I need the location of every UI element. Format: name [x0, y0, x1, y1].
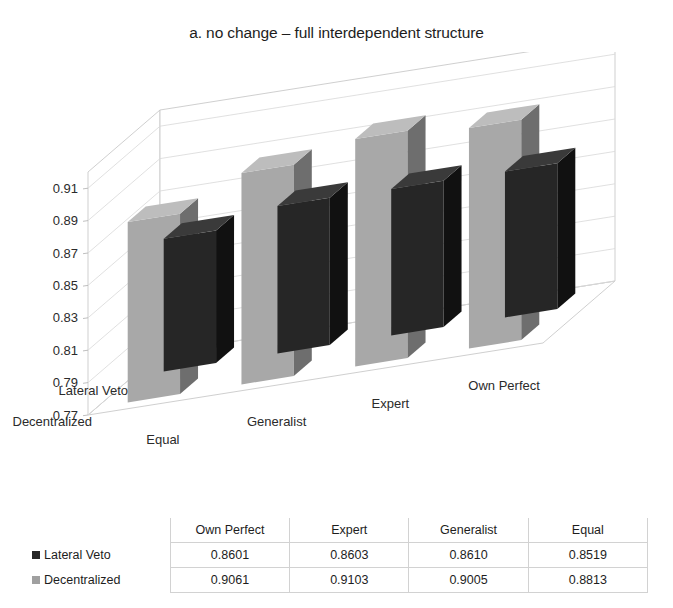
table-col-header-2: Generalist — [409, 518, 528, 543]
depth-axis-label-decentralized: Decentralized — [13, 414, 93, 429]
data-table-container: Own Perfect Expert Generalist Equal Late… — [26, 518, 648, 593]
bar-front-face — [505, 163, 557, 317]
y-axis-tick-label: 0.91 — [53, 181, 78, 196]
axis-tick-mark — [83, 221, 88, 222]
y-axis-tick-label: 0.81 — [53, 343, 78, 358]
legend-swatch-icon — [32, 576, 40, 584]
bar-lateral-veto-equal — [164, 215, 234, 371]
series-label-decentralized: Decentralized — [44, 573, 120, 587]
bar-side-face — [216, 215, 234, 363]
bar-lateral-veto-generalist — [277, 182, 347, 353]
table-cell: 0.9103 — [290, 568, 409, 593]
bar-side-face — [557, 148, 575, 309]
bar-front-face — [277, 198, 329, 354]
table-col-header-0: Own Perfect — [170, 518, 289, 543]
table-cell: 0.9005 — [409, 568, 528, 593]
x-axis-label-generalist: Generalist — [247, 414, 307, 429]
table-row-header-1: Decentralized — [26, 568, 170, 593]
table-header: Own Perfect Expert Generalist Equal — [26, 518, 648, 543]
bar-lateral-veto-expert — [391, 165, 461, 335]
bar-side-face — [330, 182, 348, 345]
data-table: Own Perfect Expert Generalist Equal Late… — [26, 518, 648, 593]
figure-container: a. no change – full interdependent struc… — [0, 0, 673, 608]
table-col-header-3: Equal — [528, 518, 647, 543]
bar-front-face — [391, 181, 443, 336]
axis-tick-mark — [83, 253, 88, 254]
three-d-bar-chart: 0.770.790.810.830.850.870.890.91 EqualGe… — [0, 52, 673, 492]
table-cell: 0.8603 — [290, 543, 409, 568]
bar-lateral-veto-own-perfect — [505, 148, 575, 318]
x-axis-label-own-perfect: Own Perfect — [468, 378, 540, 393]
table-cell: 0.8610 — [409, 543, 528, 568]
table-header-row: Own Perfect Expert Generalist Equal — [26, 518, 648, 543]
table-corner-cell — [26, 518, 170, 543]
depth-axis-label-lateral-veto: Lateral Veto — [59, 383, 128, 398]
series-label-lateral-veto: Lateral Veto — [44, 548, 111, 562]
axis-tick-mark — [83, 318, 88, 319]
y-axis-tick-label: 0.87 — [53, 246, 78, 261]
bar-front-face — [164, 230, 216, 371]
x-axis-label-equal: Equal — [146, 432, 179, 447]
table-cell: 0.8813 — [528, 568, 647, 593]
y-axis-tick-label: 0.85 — [53, 278, 78, 293]
axis-tick-mark — [83, 188, 88, 189]
table-cell: 0.8601 — [170, 543, 289, 568]
chart-title: a. no change – full interdependent struc… — [0, 24, 673, 42]
axis-tick-mark — [83, 285, 88, 286]
table-row: Decentralized 0.9061 0.9103 0.9005 0.881… — [26, 568, 648, 593]
table-cell: 0.8519 — [528, 543, 647, 568]
legend-swatch-icon — [32, 551, 40, 559]
table-body: Lateral Veto 0.8601 0.8603 0.8610 0.8519… — [26, 543, 648, 593]
table-cell: 0.9061 — [170, 568, 289, 593]
y-axis-tick-label: 0.89 — [53, 213, 78, 228]
y-axis-tick-label: 0.83 — [53, 310, 78, 325]
table-row: Lateral Veto 0.8601 0.8603 0.8610 0.8519 — [26, 543, 648, 568]
bar-side-face — [444, 165, 462, 327]
table-col-header-1: Expert — [290, 518, 409, 543]
x-axis-label-expert: Expert — [372, 396, 410, 411]
table-row-header-0: Lateral Veto — [26, 543, 170, 568]
axis-tick-mark — [83, 350, 88, 351]
